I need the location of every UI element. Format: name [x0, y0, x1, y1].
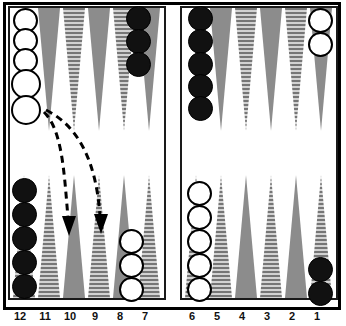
checker-white[interactable]: [119, 277, 144, 302]
point-triangle-icon: [38, 8, 60, 131]
checker-white[interactable]: [119, 253, 144, 278]
point-bottom-left-11[interactable]: [38, 175, 60, 298]
checker-white-bar[interactable]: [11, 95, 41, 125]
point-top-left-1[interactable]: [38, 8, 60, 131]
checker-white[interactable]: [187, 229, 212, 254]
point-bottom-right-3[interactable]: [260, 175, 282, 298]
checker-black[interactable]: [308, 257, 333, 282]
point-number-9: 9: [84, 310, 106, 323]
point-triangle-icon: [210, 175, 232, 298]
point-bottom-left-9[interactable]: [88, 175, 110, 298]
point-number-11: 11: [34, 310, 56, 323]
checker-white[interactable]: [308, 32, 333, 57]
checker-black[interactable]: [188, 96, 213, 121]
point-number-8: 8: [109, 310, 131, 323]
point-triangle-icon: [260, 175, 282, 298]
checker-white[interactable]: [187, 277, 212, 302]
point-triangle-icon: [285, 8, 307, 131]
checker-white[interactable]: [187, 205, 212, 230]
checker-white[interactable]: [187, 181, 212, 206]
point-bottom-left-10[interactable]: [63, 175, 85, 298]
point-top-right-2[interactable]: [235, 8, 257, 131]
point-triangle-icon: [260, 8, 282, 131]
point-triangle-icon: [210, 8, 232, 131]
point-number-6: 6: [181, 310, 203, 323]
checker-black[interactable]: [126, 52, 151, 77]
checker-black[interactable]: [12, 250, 37, 275]
point-bottom-right-5[interactable]: [210, 175, 232, 298]
point-top-left-2[interactable]: [63, 8, 85, 131]
point-number-3: 3: [256, 310, 278, 323]
checker-white[interactable]: [308, 8, 333, 33]
point-number-10: 10: [59, 310, 81, 323]
point-top-right-4[interactable]: [285, 8, 307, 131]
point-triangle-icon: [88, 175, 110, 298]
point-triangle-icon: [285, 175, 307, 298]
checker-black[interactable]: [308, 281, 333, 306]
point-top-right-3[interactable]: [260, 8, 282, 131]
point-triangle-icon: [235, 175, 257, 298]
checker-white[interactable]: [119, 229, 144, 254]
checker-black[interactable]: [12, 274, 37, 299]
point-triangle-icon: [63, 8, 85, 131]
point-triangle-icon: [88, 8, 110, 131]
point-top-left-3[interactable]: [88, 8, 110, 131]
checker-black[interactable]: [12, 178, 37, 203]
point-triangle-icon: [38, 175, 60, 298]
point-triangle-icon: [63, 175, 85, 298]
checker-black[interactable]: [126, 6, 151, 31]
point-number-row: 12 11 10 9 8 7 6 5 4 3 2 1: [0, 310, 346, 326]
backgammon-diagram: 12 11 10 9 8 7 6 5 4 3 2 1: [0, 0, 346, 326]
checker-black[interactable]: [126, 29, 151, 54]
checker-white[interactable]: [187, 253, 212, 278]
point-bottom-right-4[interactable]: [235, 175, 257, 298]
point-number-12: 12: [9, 310, 31, 323]
point-bottom-right-2[interactable]: [285, 175, 307, 298]
point-number-4: 4: [231, 310, 253, 323]
point-number-2: 2: [281, 310, 303, 323]
point-number-5: 5: [206, 310, 228, 323]
point-number-1: 1: [306, 310, 328, 323]
checker-black[interactable]: [188, 29, 213, 54]
point-top-right-1[interactable]: [210, 8, 232, 131]
checker-black[interactable]: [12, 202, 37, 227]
point-number-7: 7: [134, 310, 156, 323]
checker-black[interactable]: [188, 6, 213, 31]
checker-black[interactable]: [12, 226, 37, 251]
point-triangle-icon: [235, 8, 257, 131]
